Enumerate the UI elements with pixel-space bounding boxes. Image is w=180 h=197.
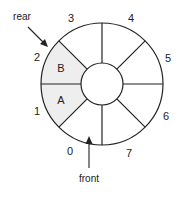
inner-ring bbox=[81, 63, 123, 105]
index-label-1: 1 bbox=[34, 105, 40, 117]
index-label-6: 6 bbox=[163, 110, 169, 122]
index-label-4: 4 bbox=[128, 12, 134, 24]
rear-label: rear bbox=[13, 11, 31, 22]
front-arrow-icon bbox=[86, 136, 93, 168]
circular-queue-diagram: B A 3 4 5 6 7 0 1 2 rear front bbox=[0, 0, 180, 197]
index-label-0: 0 bbox=[67, 145, 73, 157]
rear-arrow-icon bbox=[28, 27, 48, 47]
index-label-5: 5 bbox=[165, 52, 171, 64]
slot-1-content: A bbox=[57, 94, 65, 106]
front-label: front bbox=[79, 173, 99, 184]
index-label-2: 2 bbox=[34, 51, 40, 63]
index-label-7: 7 bbox=[126, 147, 132, 159]
index-label-3: 3 bbox=[68, 12, 74, 24]
slot-2-content: B bbox=[57, 62, 64, 74]
